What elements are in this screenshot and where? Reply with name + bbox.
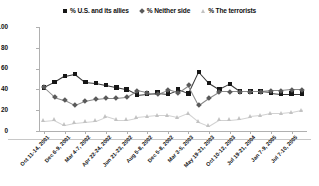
data-point-triangle <box>52 117 56 121</box>
legend-item-2: % The terrorists <box>201 7 256 15</box>
x-axis-tick-mark <box>292 131 293 134</box>
data-point-triangle <box>299 108 303 112</box>
legend-item-1: % Neither side <box>140 7 190 15</box>
data-point-diamond <box>227 89 232 94</box>
data-point-square <box>73 72 77 76</box>
data-point-square <box>104 83 108 87</box>
data-point-triangle <box>206 123 210 127</box>
y-axis-tick-label: 100 <box>0 24 8 30</box>
chart-bottom-rule <box>8 139 311 140</box>
data-point-triangle <box>196 119 200 123</box>
data-point-diamond <box>103 95 108 100</box>
data-point-triangle <box>41 118 45 122</box>
y-axis-tick-label: 0 <box>0 128 8 134</box>
data-point-triangle <box>72 120 76 124</box>
data-point-triangle <box>83 119 87 123</box>
data-point-triangle <box>186 111 190 115</box>
y-axis-tick-mark <box>36 110 39 111</box>
data-point-diamond <box>83 98 88 103</box>
data-point-square <box>94 81 98 85</box>
data-point-triangle <box>268 111 272 115</box>
data-point-triangle <box>134 115 138 119</box>
plot-area <box>39 27 307 131</box>
chart-legend: % U.S. and its allies% Neither side% The… <box>0 4 319 18</box>
legend-item-0: % U.S. and its allies <box>63 7 129 15</box>
data-point-triangle <box>155 113 159 117</box>
y-axis-tick-label: 60 <box>0 65 8 71</box>
data-point-triangle <box>258 113 262 117</box>
data-point-triangle <box>175 115 179 119</box>
y-axis-line <box>39 27 40 131</box>
data-point-square <box>52 80 56 84</box>
triangle-marker-icon <box>201 9 205 13</box>
data-point-square <box>83 80 87 84</box>
data-point-triangle <box>103 114 107 118</box>
square-marker-icon <box>63 9 67 13</box>
polling-line-chart: % U.S. and its allies% Neither side% The… <box>0 0 319 186</box>
data-point-triangle <box>93 118 97 122</box>
data-point-triangle <box>165 113 169 117</box>
data-point-square <box>114 85 118 89</box>
data-point-square <box>124 87 128 91</box>
y-axis-tick-label: 40 <box>0 86 8 92</box>
data-point-triangle <box>289 110 293 114</box>
data-point-diamond <box>93 96 98 101</box>
legend-label: % U.S. and its allies <box>70 7 129 15</box>
data-point-triangle <box>227 117 231 121</box>
data-point-triangle <box>114 117 118 121</box>
x-axis-tick-mark <box>127 131 128 134</box>
data-point-square <box>207 81 211 85</box>
data-point-diamond <box>114 95 119 100</box>
y-axis-tick-mark <box>36 131 39 132</box>
y-axis-tick-mark <box>36 69 39 70</box>
y-axis-tick-label: 80 <box>0 45 8 51</box>
data-point-triangle <box>124 117 128 121</box>
legend-label: % Neither side <box>147 7 190 15</box>
data-point-triangle <box>237 116 241 120</box>
data-point-square <box>228 82 232 86</box>
data-point-square <box>197 70 201 74</box>
data-point-triangle <box>217 117 221 121</box>
legend-label: % The terrorists <box>208 7 256 15</box>
data-point-triangle <box>62 122 66 126</box>
data-point-triangle <box>279 111 283 115</box>
y-axis-tick-mark <box>36 27 39 28</box>
data-point-square <box>63 74 67 78</box>
diamond-marker-icon <box>139 8 145 14</box>
y-axis-tick-mark <box>36 89 39 90</box>
x-axis-line <box>39 131 307 132</box>
y-axis-tick-mark <box>36 48 39 49</box>
y-axis-tick-label: 20 <box>0 107 8 113</box>
data-point-triangle <box>248 114 252 118</box>
data-point-triangle <box>145 114 149 118</box>
data-point-diamond <box>196 102 201 107</box>
